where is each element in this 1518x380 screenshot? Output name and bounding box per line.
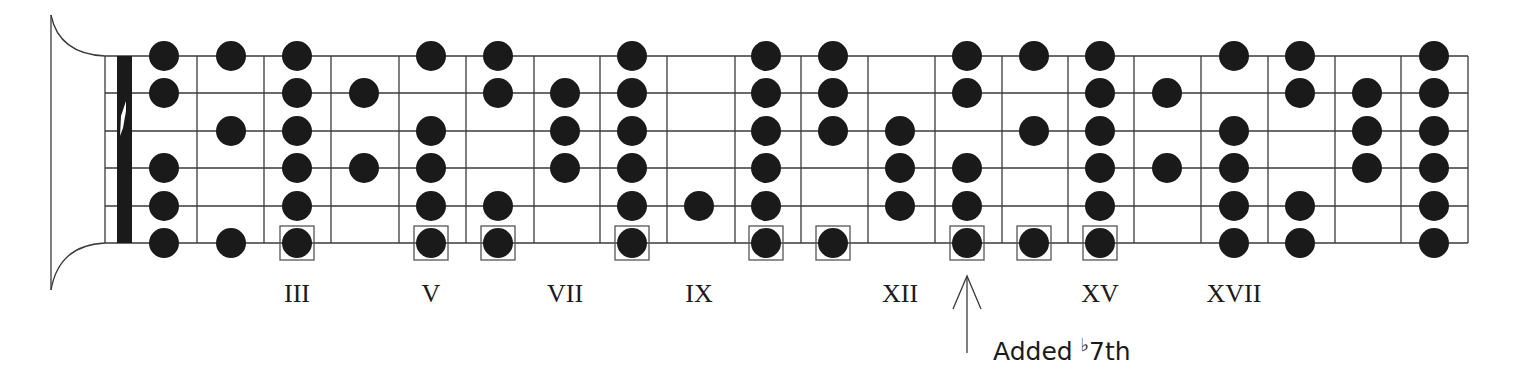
note-dot [818, 228, 848, 258]
note-dot [282, 191, 312, 221]
note-dot [1085, 191, 1115, 221]
note-dot [952, 78, 982, 108]
note-dot [149, 153, 179, 183]
annotation-suffix: 7th [1089, 337, 1131, 366]
note-dot [952, 228, 982, 258]
note-dot [1219, 116, 1249, 146]
fret-marker-label: V [422, 279, 441, 308]
note-dot [1419, 153, 1449, 183]
note-dot [684, 191, 714, 221]
fret-marker-label: III [284, 279, 310, 308]
note-dot [1152, 78, 1182, 108]
note-dot [1285, 78, 1315, 108]
note-dot [216, 116, 246, 146]
note-dot [149, 191, 179, 221]
note-dot [1019, 116, 1049, 146]
note-dot [1085, 153, 1115, 183]
note-dot [1085, 78, 1115, 108]
note-dot [1419, 228, 1449, 258]
headstock [51, 15, 105, 290]
note-dot [1152, 153, 1182, 183]
note-dot [550, 116, 580, 146]
note-dot [550, 78, 580, 108]
note-dot [1285, 41, 1315, 71]
note-dot [216, 41, 246, 71]
headstock-curve-bottom [51, 243, 105, 290]
fretboard-diagram: IIIVVIIIXXIIXVXVII Added ♭7th [0, 0, 1518, 380]
note-dot [416, 191, 446, 221]
note-dot [1085, 116, 1115, 146]
note-dot [1019, 228, 1049, 258]
note-dot [1419, 78, 1449, 108]
note-dot [617, 228, 647, 258]
fret-marker-label: XV [1081, 279, 1119, 308]
note-dot [751, 78, 781, 108]
fret-marker-label: XII [882, 279, 918, 308]
note-dot [416, 41, 446, 71]
note-dot [282, 41, 312, 71]
note-dot [216, 228, 246, 258]
note-dot [885, 191, 915, 221]
note-dot [617, 153, 647, 183]
fret-marker-label: VII [547, 279, 583, 308]
fret-lines [105, 56, 1468, 243]
note-dot [349, 153, 379, 183]
note-dot [416, 116, 446, 146]
note-dot [952, 191, 982, 221]
note-dot [483, 41, 513, 71]
note-dot [751, 153, 781, 183]
annotation-prefix: Added [993, 337, 1081, 366]
note-dot [1219, 153, 1249, 183]
scale-dots [149, 41, 1449, 260]
note-dot [550, 153, 580, 183]
note-dot [818, 41, 848, 71]
note-dot [818, 116, 848, 146]
note-dot [282, 116, 312, 146]
nut-bar [117, 56, 132, 243]
note-dot [1352, 116, 1382, 146]
note-dot [349, 78, 379, 108]
note-dot [149, 78, 179, 108]
note-dot [1352, 78, 1382, 108]
note-dot [617, 78, 647, 108]
note-dot [483, 78, 513, 108]
note-dot [149, 41, 179, 71]
flat-symbol: ♭ [1081, 334, 1090, 355]
note-dot [483, 191, 513, 221]
note-dot [617, 116, 647, 146]
note-dot [1219, 41, 1249, 71]
note-dot [149, 228, 179, 258]
note-dot [751, 116, 781, 146]
note-dot [617, 191, 647, 221]
note-dot [282, 153, 312, 183]
note-dot [1219, 228, 1249, 258]
note-dot [952, 153, 982, 183]
note-dot [1419, 41, 1449, 71]
note-dot [885, 116, 915, 146]
note-dot [1019, 41, 1049, 71]
note-dot [885, 153, 915, 183]
note-dot [1419, 191, 1449, 221]
strings [105, 56, 1468, 243]
headstock-curve-top [51, 15, 105, 56]
note-dot [282, 228, 312, 258]
note-dot [1419, 116, 1449, 146]
note-dot [416, 228, 446, 258]
note-dot [952, 41, 982, 71]
fret-marker-label: IX [685, 279, 713, 308]
note-dot [1285, 228, 1315, 258]
note-dot [818, 78, 848, 108]
annotation-label: Added ♭7th [993, 334, 1131, 366]
note-dot [1352, 153, 1382, 183]
note-dot [1285, 191, 1315, 221]
nut [117, 56, 132, 243]
note-dot [751, 191, 781, 221]
note-dot [416, 153, 446, 183]
note-dot [751, 41, 781, 71]
note-dot [1085, 41, 1115, 71]
note-dot [483, 228, 513, 258]
fret-marker-label: XVII [1207, 279, 1262, 308]
note-dot [751, 228, 781, 258]
note-dot [617, 41, 647, 71]
note-dot [1085, 228, 1115, 258]
